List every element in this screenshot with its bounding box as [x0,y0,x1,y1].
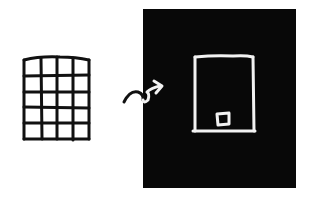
diagram-canvas [0,0,312,207]
black-panel [143,9,296,188]
